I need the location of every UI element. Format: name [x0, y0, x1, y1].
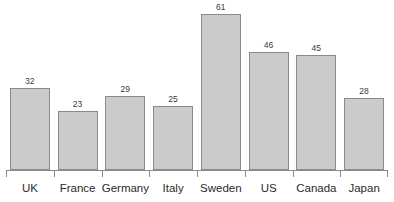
- category-label-italy: Italy: [149, 181, 197, 196]
- category-label-uk: UK: [6, 181, 54, 196]
- bar-value-label: 61: [201, 3, 241, 12]
- bar-canada[interactable]: [296, 55, 336, 170]
- category-label-sweden: Sweden: [197, 181, 245, 196]
- bar-japan[interactable]: [344, 98, 384, 170]
- category-label-germany: Germany: [102, 181, 150, 196]
- bar-group: 32: [10, 76, 50, 170]
- bar-value-label: 23: [58, 100, 98, 109]
- bar-uk[interactable]: [10, 88, 50, 170]
- bar-group: 45: [296, 43, 336, 170]
- bar-us[interactable]: [249, 52, 289, 170]
- category-label-japan: Japan: [340, 181, 388, 196]
- bar-value-label: 45: [296, 44, 336, 53]
- axis-tick: [245, 170, 246, 177]
- bar-value-label: 28: [344, 87, 384, 96]
- bar-group: 28: [344, 86, 384, 170]
- bar-chart: 3223292561464528 UKFranceGermanyItalySwe…: [0, 0, 394, 202]
- axis-tick: [197, 170, 198, 177]
- category-label-canada: Canada: [293, 181, 341, 196]
- bar-group: 61: [201, 2, 241, 170]
- bar-group: 23: [58, 99, 98, 170]
- bar-italy[interactable]: [153, 106, 193, 170]
- axis-tick: [6, 170, 7, 177]
- axis-tick: [149, 170, 150, 177]
- plot-area: 3223292561464528: [0, 0, 394, 170]
- x-axis-category-labels: UKFranceGermanyItalySwedenUSCanadaJapan: [0, 181, 394, 202]
- category-label-france: France: [54, 181, 102, 196]
- bar-sweden[interactable]: [201, 14, 241, 170]
- bar-group: 29: [105, 84, 145, 170]
- bar-value-label: 46: [249, 41, 289, 50]
- bar-value-label: 29: [105, 85, 145, 94]
- bar-group: 25: [153, 94, 193, 170]
- axis-tick: [387, 170, 388, 177]
- axis-tick: [340, 170, 341, 177]
- bar-group: 46: [249, 40, 289, 170]
- axis-tick: [293, 170, 294, 177]
- bar-value-label: 32: [10, 77, 50, 86]
- bar-value-label: 25: [153, 95, 193, 104]
- category-label-us: US: [245, 181, 293, 196]
- axis-tick: [102, 170, 103, 177]
- bar-germany[interactable]: [105, 96, 145, 170]
- axis-tick: [54, 170, 55, 177]
- bar-france[interactable]: [58, 111, 98, 170]
